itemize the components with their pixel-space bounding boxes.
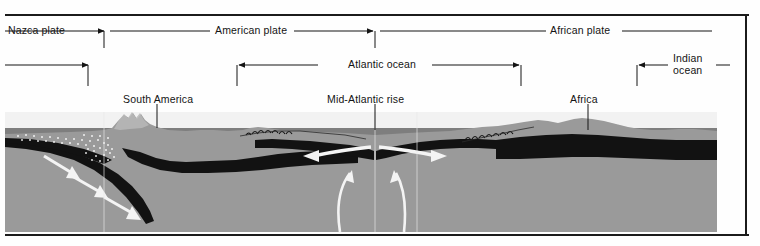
label-nazca-plate: Nazca plate [8, 25, 65, 37]
label-south-america: South America [123, 94, 193, 106]
label-mid-atlantic-rise: Mid-Atlantic rise [327, 94, 404, 106]
plate-tectonics-figure: Nazca plate American plate African plate… [0, 0, 760, 246]
label-american-plate: American plate [215, 25, 287, 37]
label-indian-ocean-line1: Indian [673, 53, 703, 64]
label-atlantic-ocean: Atlantic ocean [348, 59, 416, 71]
label-africa: Africa [570, 94, 598, 106]
label-indian-ocean-line2: ocean [673, 65, 702, 76]
label-african-plate: African plate [550, 25, 610, 37]
annotation-leaders [0, 0, 760, 246]
